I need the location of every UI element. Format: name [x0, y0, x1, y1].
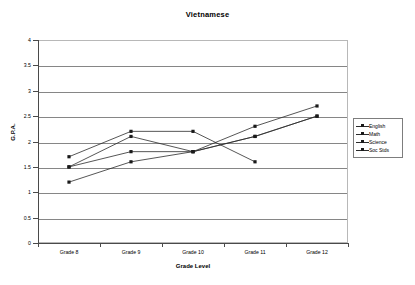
series-marker — [67, 181, 70, 184]
series-marker — [253, 160, 256, 163]
series-marker — [67, 165, 70, 168]
chart-title: Vietnamese — [0, 10, 415, 19]
chart-container: Vietnamese 00.511.522.533.54 Grade 8Grad… — [0, 0, 415, 285]
x-axis-title: Grade Level — [38, 262, 348, 270]
x-tick-mark — [162, 243, 163, 247]
series-marker — [129, 130, 132, 133]
series-marker — [129, 135, 132, 138]
x-tick-mark — [286, 243, 287, 247]
legend-marker-icon — [356, 122, 369, 130]
series-marker — [315, 115, 318, 118]
x-tick-label: Grade 12 — [286, 249, 348, 256]
y-tick-label: 0.5 — [7, 215, 31, 221]
x-tick-label: Grade 9 — [100, 249, 162, 256]
series-line — [69, 131, 255, 161]
legend-item-label: English — [369, 123, 385, 130]
series-plot — [38, 40, 348, 243]
legend-item[interactable]: Soc Stds — [356, 146, 400, 154]
series-marker — [191, 150, 194, 153]
y-tick-label: 0 — [7, 240, 31, 246]
legend-marker-icon — [356, 146, 369, 154]
legend-marker-icon — [356, 138, 369, 146]
y-tick-label: 4 — [7, 37, 31, 43]
y-tick-label: 3.5 — [7, 62, 31, 68]
x-tick-mark — [348, 243, 349, 247]
legend-item-label: Science — [369, 139, 387, 146]
y-axis-title: G.P.A. — [9, 112, 17, 152]
legend-item-label: Math — [369, 131, 380, 138]
x-axis-line — [38, 243, 349, 244]
y-tick-label: 3 — [7, 88, 31, 94]
series-line — [69, 116, 317, 182]
legend-item[interactable]: Math — [356, 130, 400, 138]
legend-item-label: Soc Stds — [369, 147, 389, 154]
series-marker — [129, 160, 132, 163]
series-marker — [67, 155, 70, 158]
series-marker — [253, 125, 256, 128]
x-tick-label: Grade 10 — [162, 249, 224, 256]
legend-item[interactable]: Science — [356, 138, 400, 146]
y-tick-label: 1 — [7, 189, 31, 195]
y-tick-label: 1.5 — [7, 164, 31, 170]
series-marker — [191, 130, 194, 133]
x-tick-label: Grade 11 — [224, 249, 286, 256]
series-marker — [253, 135, 256, 138]
x-tick-label: Grade 8 — [38, 249, 100, 256]
x-tick-mark — [100, 243, 101, 247]
series-marker — [315, 104, 318, 107]
x-tick-mark — [38, 243, 39, 247]
x-tick-mark — [224, 243, 225, 247]
legend-item[interactable]: English — [356, 122, 400, 130]
chart-legend: EnglishMathScienceSoc Stds — [353, 118, 403, 158]
series-marker — [129, 150, 132, 153]
legend-marker-icon — [356, 130, 369, 138]
